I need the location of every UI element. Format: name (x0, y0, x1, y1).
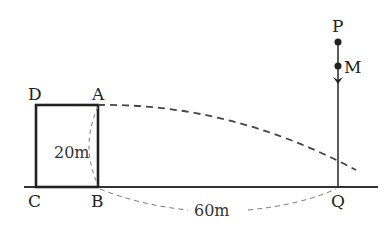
label-b: B (91, 191, 104, 211)
label-q: Q (331, 191, 345, 211)
label-c: C (28, 191, 41, 211)
point-p-dot (335, 39, 342, 46)
label-height: 20m (54, 143, 90, 162)
height-arc (89, 107, 98, 185)
trajectory-curve (98, 105, 356, 170)
distance-arc-right (248, 189, 336, 210)
label-p: P (332, 16, 343, 36)
label-d: D (28, 84, 42, 104)
point-m-dot (335, 63, 342, 70)
label-m: M (344, 57, 361, 77)
projectile-diagram: D A C B P M Q 20m 60m (0, 0, 391, 228)
label-distance: 60m (194, 201, 230, 220)
label-a: A (91, 84, 105, 104)
distance-arc-left (100, 189, 188, 210)
